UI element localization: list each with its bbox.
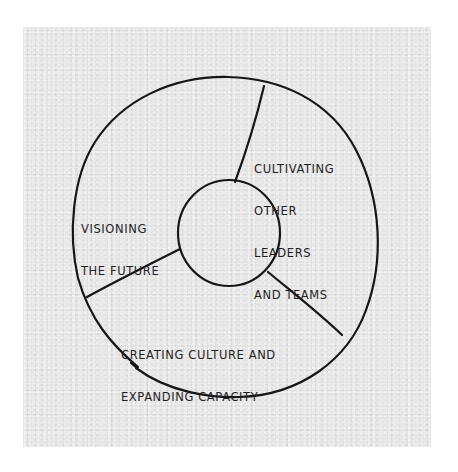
segment-label-line: OTHER — [254, 204, 334, 218]
segment-label-line: LEADERS — [254, 246, 334, 260]
segment-label-line: VISIONING — [81, 222, 159, 236]
segment-label-line: CREATING CULTURE AND — [121, 348, 276, 362]
segment-label-creating: CREATING CULTURE AND EXPANDING CAPACITY — [121, 320, 276, 418]
segment-label-visioning: VISIONING THE FUTURE — [81, 194, 159, 292]
segment-label-line: THE FUTURE — [81, 264, 159, 278]
segment-label-cultivating: CULTIVATING OTHER LEADERS AND TEAMS — [254, 134, 334, 316]
segment-label-line: EXPANDING CAPACITY — [121, 390, 276, 404]
segment-label-line: AND TEAMS — [254, 288, 334, 302]
segment-label-line: CULTIVATING — [254, 162, 334, 176]
